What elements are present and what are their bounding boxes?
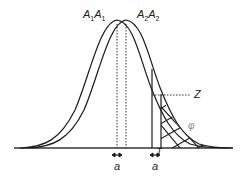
label-a-left: a (114, 161, 120, 172)
shift-arrow-left (112, 153, 122, 157)
label-z: Z (194, 89, 201, 100)
label-phi: φ (188, 121, 195, 131)
label-t: T (156, 148, 162, 158)
curve-a2 (28, 20, 233, 148)
label-a1-sub-2: 1 (102, 15, 106, 22)
label-a2-a2: A2A2 (137, 9, 160, 22)
label-a-right: a (152, 161, 158, 172)
label-a2-main-2: A (148, 8, 155, 20)
normal-distribution-diagram (0, 0, 245, 185)
curve-a1 (20, 20, 228, 148)
label-a1-a1: A1A1 (83, 9, 106, 22)
label-a1-main-2: A (94, 8, 101, 20)
label-a2-sub-2: 2 (156, 15, 160, 22)
